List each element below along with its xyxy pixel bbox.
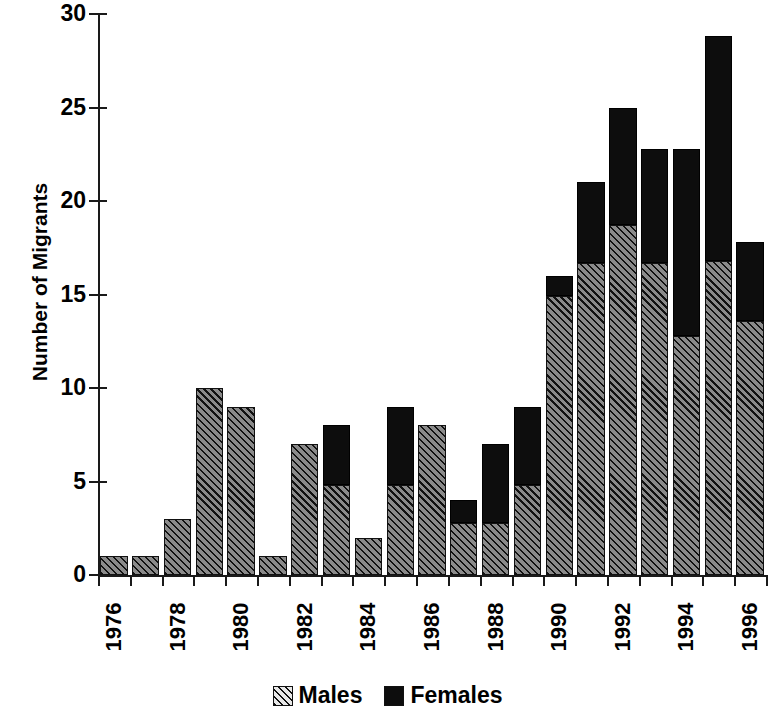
x-tick-label-1986: 1986 xyxy=(420,586,444,676)
bar-1994 xyxy=(673,149,700,575)
x-tick-label-text: 1976 xyxy=(103,584,125,670)
bar-segment-males-1989 xyxy=(514,485,541,575)
bar-segment-females-1988 xyxy=(482,444,509,523)
chart-legend: MalesFemales xyxy=(0,684,775,707)
x-tick-0 xyxy=(98,575,100,586)
legend-item-males[interactable]: Males xyxy=(273,684,363,707)
bar-1990 xyxy=(546,276,573,575)
bar-segment-males-1981 xyxy=(259,556,286,575)
x-tick-label-1990: 1990 xyxy=(547,586,571,676)
y-tick-label-25: 25 xyxy=(26,96,86,119)
bar-segment-males-1990 xyxy=(546,296,573,575)
bar-1981 xyxy=(259,556,286,575)
bar-1976 xyxy=(100,556,127,575)
bar-1989 xyxy=(514,407,541,575)
bar-1986 xyxy=(418,425,445,575)
bar-segment-males-1992 xyxy=(609,225,636,575)
x-axis-line xyxy=(98,575,766,577)
x-tick-label-text: 1986 xyxy=(421,584,443,670)
x-tick-label-1992: 1992 xyxy=(611,586,635,676)
bar-segment-males-1988 xyxy=(482,523,509,575)
x-tick-label-text: 1994 xyxy=(675,584,697,670)
bar-chart-figure: Number of Migrants 051015202530 19761978… xyxy=(0,0,775,722)
bar-segment-females-1995 xyxy=(705,36,732,260)
bar-1984 xyxy=(355,538,382,575)
x-tick-1 xyxy=(130,575,132,586)
x-tick-17 xyxy=(639,575,641,586)
x-tick-label-text: 1984 xyxy=(357,584,379,670)
bar-segment-females-1993 xyxy=(641,149,668,263)
x-tick-20 xyxy=(734,575,736,586)
bar-group xyxy=(98,14,766,575)
x-tick-12 xyxy=(480,575,482,586)
bar-segment-females-1994 xyxy=(673,149,700,336)
x-tick-label-text: 1996 xyxy=(739,584,761,670)
x-tick-label-1984: 1984 xyxy=(356,586,380,676)
x-tick-label-1976: 1976 xyxy=(102,586,126,676)
x-tick-19 xyxy=(702,575,704,586)
bar-1977 xyxy=(132,556,159,575)
x-tick-label-text: 1980 xyxy=(230,584,252,670)
x-tick-8 xyxy=(352,575,354,586)
bar-segment-males-1993 xyxy=(641,263,668,575)
bar-segment-males-1979 xyxy=(196,388,223,575)
bar-1988 xyxy=(482,444,509,575)
bar-segment-males-1985 xyxy=(387,485,414,575)
bar-segment-males-1980 xyxy=(227,407,254,575)
bar-segment-females-1989 xyxy=(514,407,541,486)
x-tick-21 xyxy=(766,575,768,586)
bar-1979 xyxy=(196,388,223,575)
bar-segment-females-1992 xyxy=(609,108,636,226)
legend-label-females: Females xyxy=(410,684,502,707)
bar-segment-males-1983 xyxy=(323,485,350,575)
x-tick-7 xyxy=(321,575,323,586)
x-tick-label-1982: 1982 xyxy=(293,586,317,676)
y-tick-label-0: 0 xyxy=(26,563,86,586)
y-tick-label-20: 20 xyxy=(26,189,86,212)
x-tick-3 xyxy=(193,575,195,586)
x-tick-11 xyxy=(448,575,450,586)
x-tick-13 xyxy=(512,575,514,586)
bar-segment-females-1985 xyxy=(387,407,414,486)
x-tick-label-1996: 1996 xyxy=(738,586,762,676)
x-tick-label-1988: 1988 xyxy=(484,586,508,676)
bar-segment-females-1990 xyxy=(546,276,573,297)
x-tick-5 xyxy=(257,575,259,586)
bar-segment-males-1987 xyxy=(450,523,477,575)
bar-segment-males-1996 xyxy=(736,321,763,575)
bar-1995 xyxy=(705,36,732,575)
bar-1992 xyxy=(609,108,636,576)
x-tick-6 xyxy=(289,575,291,586)
bar-segment-males-1978 xyxy=(164,519,191,575)
y-tick-label-30: 30 xyxy=(26,2,86,25)
legend-item-females[interactable]: Females xyxy=(384,684,502,707)
bar-segment-females-1996 xyxy=(736,242,763,321)
x-tick-label-1980: 1980 xyxy=(229,586,253,676)
bar-1980 xyxy=(227,407,254,575)
bar-segment-males-1994 xyxy=(673,336,700,575)
legend-swatch-males-icon xyxy=(273,686,293,706)
y-tick-label-15: 15 xyxy=(26,283,86,306)
bar-1983 xyxy=(323,425,350,575)
bar-segment-males-1977 xyxy=(132,556,159,575)
x-tick-label-1978: 1978 xyxy=(166,586,190,676)
x-tick-18 xyxy=(671,575,673,586)
bar-1985 xyxy=(387,407,414,575)
bar-1996 xyxy=(736,242,763,575)
x-tick-label-text: 1982 xyxy=(294,584,316,670)
x-tick-4 xyxy=(225,575,227,586)
bar-segment-females-1991 xyxy=(577,182,604,262)
bar-segment-males-1984 xyxy=(355,538,382,575)
bar-segment-males-1991 xyxy=(577,263,604,575)
x-tick-label-text: 1988 xyxy=(485,584,507,670)
bar-1987 xyxy=(450,500,477,575)
bar-segment-males-1976 xyxy=(100,556,127,575)
x-tick-16 xyxy=(607,575,609,586)
bar-segment-females-1983 xyxy=(323,425,350,485)
plot-area: 051015202530 xyxy=(98,14,766,575)
legend-swatch-females-icon xyxy=(384,686,404,706)
x-tick-10 xyxy=(416,575,418,586)
x-tick-15 xyxy=(575,575,577,586)
y-tick-label-10: 10 xyxy=(26,376,86,399)
x-tick-2 xyxy=(162,575,164,586)
